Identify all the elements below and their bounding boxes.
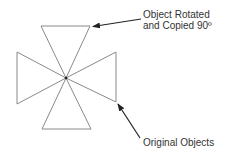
- rotated-triangle-bottom: [42, 78, 91, 129]
- arrow-original: [118, 104, 140, 138]
- rotated-triangle-top: [41, 26, 90, 78]
- label-rotated-line1: Object Rotated: [143, 9, 212, 20]
- center-point: [65, 77, 68, 80]
- arrow-rotated: [93, 19, 141, 27]
- diagram-canvas: Object Rotated and Copied 90º Original O…: [0, 0, 227, 157]
- original-triangle-right: [66, 52, 116, 102]
- label-original: Original Objects: [143, 137, 214, 148]
- label-rotated: Object Rotated and Copied 90º: [143, 9, 212, 31]
- original-triangle-left: [17, 52, 66, 104]
- label-rotated-line2: and Copied 90º: [143, 20, 212, 31]
